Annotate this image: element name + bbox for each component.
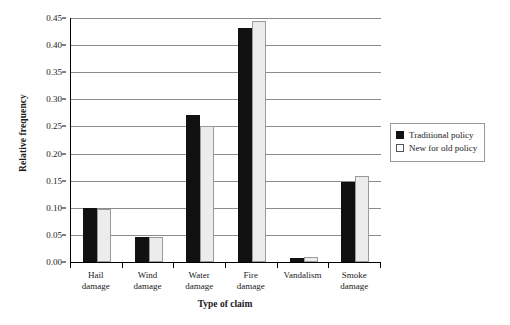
bar [355,176,369,262]
bar-group [83,18,111,262]
legend-label: New for old policy [409,143,477,153]
y-axis-tick-mark [62,99,66,100]
y-axis-tick-label: 0.40 [46,40,62,50]
x-axis-tick-mark [122,263,123,268]
y-axis-tick-label: 0.15 [46,176,62,186]
bar [135,237,149,262]
x-axis-title: Type of claim [70,299,380,309]
y-axis-title-text: Relative frequency [18,94,28,172]
y-axis-tick-label: 0.00 [46,257,62,267]
bar [252,21,266,262]
legend-swatch [396,144,404,152]
y-axis-tick-mark [62,262,66,263]
y-axis-tick-mark [62,72,66,73]
y-axis-tick-label: 0.05 [46,230,62,240]
gridline [71,208,381,209]
bar [290,258,304,262]
y-axis-tick-label: 0.20 [46,149,62,159]
bar [341,182,355,262]
gridline [71,72,381,73]
bar [186,115,200,262]
bar [238,28,252,262]
x-axis-tick-mark [225,263,226,268]
gridline [71,45,381,46]
gridline [71,181,381,182]
bar-chart-figure: Relative frequency 0.000.050.100.150.200… [0,0,510,325]
y-axis-tick-label: 0.25 [46,121,62,131]
bar-group [238,18,266,262]
bar [149,237,163,262]
bar-group [341,18,369,262]
bar [97,209,111,262]
y-axis-tick-mark [62,126,66,127]
legend-item: Traditional policy [396,130,477,140]
x-axis-tick-mark [173,263,174,268]
gridline [71,154,381,155]
bar [200,126,214,262]
bar [304,257,318,262]
y-axis-tick-mark [62,180,66,181]
x-axis-tick-mark [380,263,381,268]
x-axis-category-label: Smokedamage [319,270,389,292]
x-axis-tick-mark [328,263,329,268]
bar [83,208,97,262]
y-axis-tick-label: 0.10 [46,203,62,213]
gridline [71,18,381,19]
y-axis-tick-label: 0.30 [46,94,62,104]
gridline [71,235,381,236]
y-axis-tick-mark [62,207,66,208]
y-axis-tick-mark [62,153,66,154]
legend-label: Traditional policy [409,130,473,140]
gridline [71,126,381,127]
x-axis-tick-mark [70,263,71,268]
legend: Traditional policyNew for old policy [390,123,485,162]
bar-group [135,18,163,262]
y-axis-tick-mark [62,18,66,19]
y-axis-tick-label: 0.35 [46,67,62,77]
bar-group [290,18,318,262]
legend-swatch [396,131,404,139]
y-axis-tick-label: 0.45 [46,13,62,23]
y-axis-tick-mark [62,45,66,46]
legend-item: New for old policy [396,143,477,153]
gridline [71,99,381,100]
bar-group [186,18,214,262]
x-axis-tick-mark [277,263,278,268]
plot-area [70,18,381,263]
y-axis-tick-mark [62,234,66,235]
